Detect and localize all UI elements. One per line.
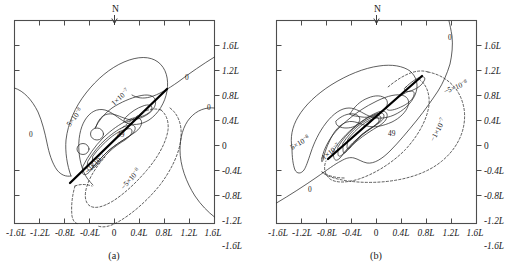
contour-n5em8-left2-a bbox=[75, 185, 92, 187]
svg-text:0.8L: 0.8L bbox=[222, 91, 239, 101]
svg-text:5×10−8: 5×10−8 bbox=[64, 106, 85, 129]
svg-text:−5×10−8: −5×10−8 bbox=[118, 166, 142, 192]
north-indicator-a: N bbox=[112, 3, 119, 25]
north-indicator-b: N bbox=[374, 3, 381, 25]
contour-label-zero-upperright-b: 0 bbox=[448, 33, 452, 42]
north-label: N bbox=[112, 3, 119, 14]
svg-text:0: 0 bbox=[374, 228, 379, 238]
svg-text:0: 0 bbox=[112, 228, 117, 238]
svg-text:1.6L: 1.6L bbox=[222, 41, 239, 51]
svg-text:-0.4L: -0.4L bbox=[222, 166, 242, 176]
contour-5em8-b bbox=[291, 65, 417, 173]
svg-text:1.6L: 1.6L bbox=[484, 41, 501, 51]
contour-1em7-a bbox=[95, 95, 156, 128]
contour-zero-main-b bbox=[277, 21, 453, 203]
svg-text:−5×10−8: −5×10−8 bbox=[442, 77, 469, 95]
contour-zero-upperright-a bbox=[132, 57, 215, 98]
svg-text:0.8L: 0.8L bbox=[156, 228, 173, 238]
contour-label-zero-midright-a: 0 bbox=[207, 103, 211, 112]
label-n1em7-exp: −7 bbox=[436, 116, 444, 124]
contour-label-core-a: 49 bbox=[117, 130, 125, 139]
panel-a: N bbox=[0, 0, 262, 267]
contour-label-n1em7-b: −1×10−7 bbox=[427, 116, 447, 143]
svg-text:0.4L: 0.4L bbox=[393, 228, 410, 238]
svg-text:0.8L: 0.8L bbox=[484, 91, 501, 101]
x-ticks-b bbox=[277, 219, 477, 224]
plot-frame-a bbox=[15, 21, 215, 224]
contour-label-zero-lowerleft-b: 0 bbox=[308, 185, 312, 194]
contour-label-5em8-a: 5×10−8 bbox=[64, 106, 85, 129]
y-tick-labels-a: 1.6L 1.2L 0.8L 0.4L 0 -0.4L -0.8L -1.2L … bbox=[222, 41, 242, 251]
contour-n5em8-a bbox=[98, 108, 181, 227]
svg-text:0: 0 bbox=[222, 141, 227, 151]
contour-label-n5em8-a: −5×10−8 bbox=[118, 166, 142, 192]
svg-text:−1×10−7: −1×10−7 bbox=[427, 116, 447, 143]
svg-text:0.8L: 0.8L bbox=[418, 228, 435, 238]
panel-a-svg: N bbox=[0, 0, 262, 267]
svg-text:-1.2L: -1.2L bbox=[30, 228, 50, 238]
svg-text:-0.8L: -0.8L bbox=[222, 191, 242, 201]
svg-text:0.4L: 0.4L bbox=[222, 116, 239, 126]
contour-label-1em7-b: 1×10−7 bbox=[319, 141, 342, 162]
svg-text:-1.2L: -1.2L bbox=[484, 216, 504, 226]
svg-text:-1.6L: -1.6L bbox=[484, 241, 504, 251]
svg-text:-0.4L: -0.4L bbox=[484, 166, 504, 176]
y-ticks-a bbox=[215, 46, 220, 196]
north-label: N bbox=[374, 3, 381, 14]
contour-label-zero-upperright-a: 0 bbox=[185, 73, 189, 82]
svg-text:1.2L: 1.2L bbox=[181, 228, 198, 238]
contour-zero-rightlobe-a bbox=[180, 108, 215, 217]
svg-text:-1.6L: -1.6L bbox=[222, 241, 242, 251]
panel-caption-b: (b) bbox=[370, 250, 382, 262]
svg-text:-1.6L: -1.6L bbox=[6, 228, 26, 238]
y-tick-labels-b: 1.6L 1.2L 0.8L 0.4L 0 -0.4L -0.8L -1.2L … bbox=[484, 41, 504, 251]
y-ticks-left-b bbox=[277, 46, 282, 196]
svg-text:1×10−7: 1×10−7 bbox=[319, 141, 342, 162]
contour-5em8-a bbox=[66, 58, 168, 186]
panel-caption-a: (a) bbox=[108, 250, 119, 262]
contour-label-n5em8-b: −5×10−8 bbox=[442, 77, 469, 95]
svg-text:1×10−7: 1×10−7 bbox=[109, 86, 131, 107]
svg-text:1.2L: 1.2L bbox=[484, 66, 501, 76]
svg-text:1.6L: 1.6L bbox=[205, 228, 222, 238]
contour-label-1em7-a: 1×10−7 bbox=[109, 86, 131, 107]
svg-text:-1.2L: -1.2L bbox=[292, 228, 312, 238]
svg-text:1.2L: 1.2L bbox=[222, 66, 239, 76]
contour-label-core-b: 49 bbox=[388, 129, 396, 138]
svg-text:-0.8L: -0.8L bbox=[317, 228, 337, 238]
svg-text:-0.8L: -0.8L bbox=[55, 228, 75, 238]
svg-text:1.6L: 1.6L bbox=[467, 228, 484, 238]
svg-text:0: 0 bbox=[484, 141, 489, 151]
svg-text:-0.4L: -0.4L bbox=[80, 228, 100, 238]
svg-text:0.4L: 0.4L bbox=[131, 228, 148, 238]
panel-b: N bbox=[262, 0, 524, 267]
svg-text:−1×10−7: −1×10−7 bbox=[83, 151, 108, 176]
contour-blob2-a bbox=[91, 128, 104, 140]
svg-text:1.2L: 1.2L bbox=[443, 228, 460, 238]
label-5em8-exp: −8 bbox=[301, 133, 309, 141]
svg-text:-1.6L: -1.6L bbox=[268, 228, 288, 238]
x-ticks-a bbox=[15, 219, 215, 224]
svg-text:-0.8L: -0.8L bbox=[484, 191, 504, 201]
contour-label-n1em7-a: −1×10−7 bbox=[83, 151, 108, 176]
contour-core2-b bbox=[338, 113, 384, 156]
x-tick-labels-a: -1.6L -1.2L -0.8L -0.4L 0 0.4L 0.8L 1.2L… bbox=[6, 228, 222, 238]
panel-b-svg: N bbox=[262, 0, 524, 267]
contour-zero-left-a bbox=[15, 88, 72, 176]
x-tick-labels-b: -1.6L -1.2L -0.8L -0.4L 0 0.4L 0.8L 1.2L… bbox=[268, 228, 484, 238]
svg-text:0.4L: 0.4L bbox=[484, 116, 501, 126]
svg-text:-1.2L: -1.2L bbox=[222, 216, 242, 226]
svg-text:-0.4L: -0.4L bbox=[342, 228, 362, 238]
y-ticks-left-a bbox=[15, 46, 20, 196]
contour-n1em7-b bbox=[325, 79, 430, 182]
figure-container: N bbox=[0, 0, 524, 267]
label-n1em7-text: −1×10 bbox=[428, 121, 445, 143]
plot-frame-b bbox=[277, 21, 477, 224]
label-n5em8-exp: −8 bbox=[460, 77, 468, 85]
y-ticks-b bbox=[477, 46, 482, 196]
contour-n5em8-left-a bbox=[72, 186, 77, 224]
contour-label-zero-left-a: 0 bbox=[29, 130, 33, 139]
